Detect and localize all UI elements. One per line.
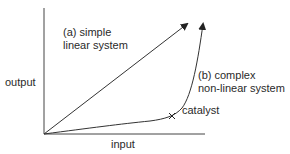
- nonlinear-label-line2: non-linear system: [198, 82, 285, 95]
- linear-label-line2: linear system: [63, 39, 128, 52]
- catalyst-label: catalyst: [182, 104, 219, 117]
- y-axis-label: output: [5, 76, 36, 89]
- nonlinear-label-line1: (b) complex: [198, 69, 255, 82]
- x-axis-label: input: [111, 138, 135, 151]
- linear-label-line1: (a) simple: [63, 26, 111, 39]
